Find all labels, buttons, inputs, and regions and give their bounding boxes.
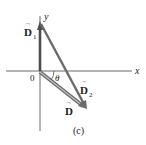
- figure-caption: (c): [73, 125, 84, 137]
- y-axis-label: y: [43, 11, 49, 22]
- angle-arc: [51, 71, 54, 80]
- angle-theta-label: θ: [55, 73, 60, 83]
- d1-label: → D 1: [24, 20, 37, 41]
- svg-text:D: D: [65, 105, 73, 117]
- vector-d2: [41, 24, 87, 109]
- svg-text:D: D: [24, 26, 32, 38]
- x-axis-label: x: [134, 65, 140, 76]
- d2-label: → D 2: [80, 78, 93, 99]
- svg-text:2: 2: [89, 91, 93, 99]
- vector-diagram: y x 0 θ → D 1 → D 2 → D (c): [0, 0, 146, 145]
- svg-text:1: 1: [33, 33, 37, 41]
- origin-label: 0: [30, 73, 35, 83]
- d-label: → D: [65, 99, 73, 117]
- svg-text:D: D: [80, 84, 88, 96]
